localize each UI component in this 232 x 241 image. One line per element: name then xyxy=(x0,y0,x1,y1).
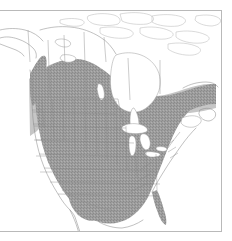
gulf-of-st-lawrence xyxy=(181,116,201,128)
range-map-figure: Primary range Secondary range North Amer… xyxy=(0,0,232,241)
great-bear-lake xyxy=(55,39,71,47)
lake-michigan xyxy=(129,136,136,156)
map-canvas xyxy=(0,0,232,241)
lake-ontario xyxy=(156,147,167,152)
